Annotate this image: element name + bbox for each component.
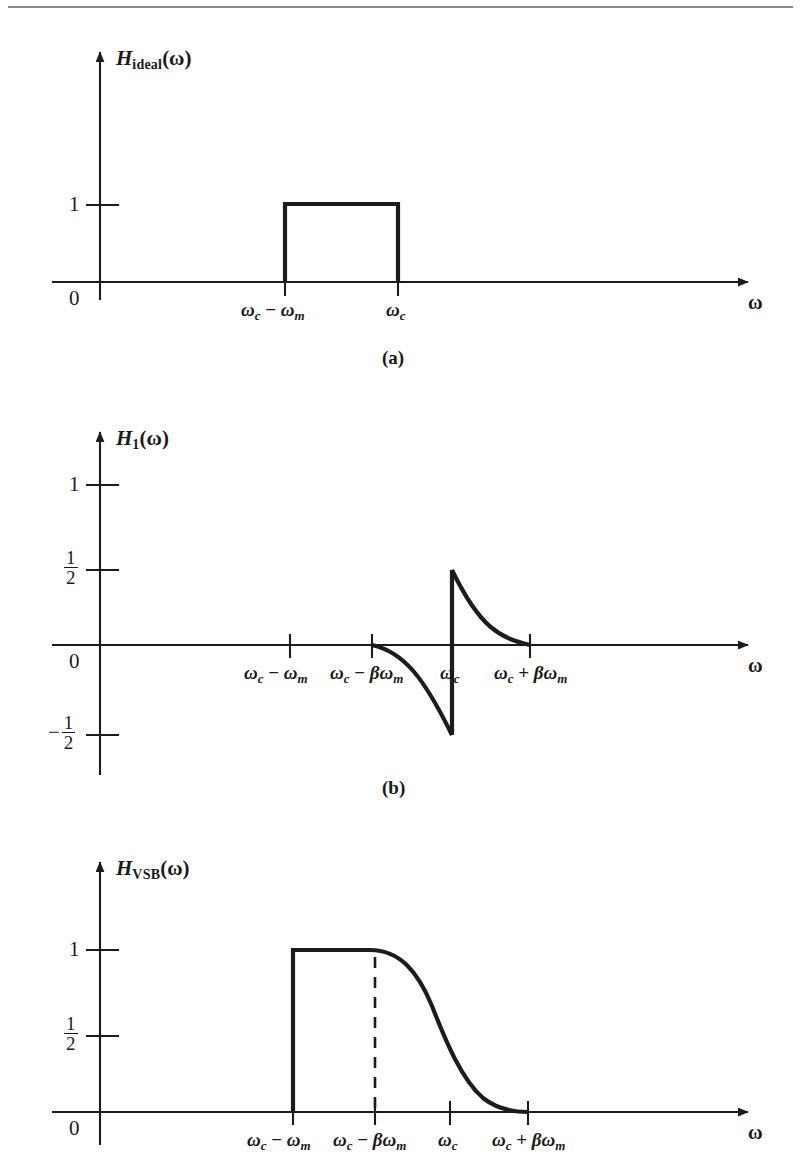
panel-a-y-label-main: H	[116, 46, 132, 70]
panel-b-xtick-label-1: ωc − βωm	[330, 663, 403, 685]
panel-b-xtick-label-3: ωc + βωm	[494, 663, 567, 685]
panel-b-xtick-label-0: ωc − ωm	[244, 663, 308, 685]
panel-a-curve-ideal	[285, 204, 398, 282]
panel-a-ytick-label-1: 1	[69, 194, 80, 215]
panel-b-y-label-sub: 1	[132, 437, 139, 452]
panel-c-ytick-label-0: 0	[69, 1118, 80, 1139]
figure-canvas	[0, 0, 801, 1158]
panel-c-y-label-arg: (ω)	[160, 856, 189, 880]
panel-c-y-label-main: H	[116, 856, 132, 880]
panel-a-y-axis-label: Hideal(ω)	[116, 48, 191, 72]
panel-a-caption: (a)	[382, 348, 404, 367]
panel-c-xtick-label-0: ωc − ωm	[247, 1130, 311, 1152]
panel-a-y-label-arg: (ω)	[162, 46, 191, 70]
panel-a-y-label-sub: ideal	[132, 57, 162, 72]
panel-b-ytick-label-neg-half: −12	[48, 713, 75, 753]
panel-a-ytick-label-0: 0	[69, 288, 80, 309]
panel-b-caption: (b)	[382, 778, 405, 797]
panel-b-y-label-main: H	[116, 426, 132, 450]
panel-c-y-axis-label: HVSB(ω)	[116, 858, 190, 882]
panel-a-x-axis-label: ω	[748, 292, 763, 312]
panel-c-y-label-sub: VSB	[132, 867, 160, 882]
panel-c-xtick-label-2: ωc	[438, 1130, 458, 1152]
panel-b-xtick-label-2: ωc	[440, 663, 460, 685]
panel-c-xtick-label-3: ωc + βωm	[492, 1130, 565, 1152]
panel-b-y-axis-label: H1(ω)	[116, 428, 169, 452]
panel-a-xtick-label-1: ωc	[386, 300, 406, 322]
panel-a-xtick-label-0: ωc − ωm	[241, 300, 305, 322]
panel-c-x-axis-label: ω	[748, 1122, 763, 1142]
figure-root: Hideal(ω) 1 0 ωc − ωm ωc ω (a) H1(ω) 1 1…	[0, 0, 801, 1158]
panel-b-ytick-label-half: 12	[64, 548, 78, 588]
panel-c-curve-vsb	[293, 950, 528, 1112]
panel-b-y-label-arg: (ω)	[140, 426, 169, 450]
panel-c-ytick-label-half: 12	[64, 1014, 78, 1054]
panel-b-ytick-label-0: 0	[69, 651, 80, 672]
panel-b-x-axis-label: ω	[748, 655, 763, 675]
panel-b-curve-lower	[372, 645, 452, 735]
panel-c-ytick-label-1: 1	[69, 939, 80, 960]
panel-b-axes	[52, 432, 748, 775]
panel-b-curve-upper	[452, 570, 530, 645]
panel-c-axes	[52, 862, 748, 1145]
panel-c-xtick-label-1: ωc − βωm	[333, 1130, 406, 1152]
panel-b-ytick-label-1: 1	[69, 474, 80, 495]
